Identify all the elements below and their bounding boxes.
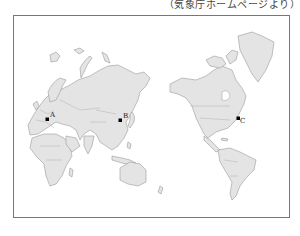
greenland (238, 32, 274, 82)
world-map: A B C (0, 0, 300, 236)
marker-a-label: A (49, 111, 56, 119)
marker-c[interactable]: C (237, 117, 246, 126)
svalbard (50, 52, 60, 62)
marker-b-label: B (123, 112, 128, 120)
canadian-arctic (206, 56, 226, 68)
new-zealand (158, 186, 163, 194)
marker-square-icon (46, 118, 50, 122)
marker-square-icon (119, 119, 123, 123)
india (84, 136, 94, 154)
central-america (204, 136, 220, 152)
novaya-zemlya (80, 56, 92, 78)
marker-c-label: C (240, 117, 245, 125)
severnaya-zemlya (102, 52, 110, 63)
north-america (170, 66, 246, 138)
baffin (226, 50, 238, 64)
caribbean (221, 138, 228, 141)
south-america (218, 148, 256, 200)
australia (120, 162, 146, 186)
madagascar (69, 168, 73, 177)
franz-josef (74, 48, 84, 54)
philippines (127, 142, 131, 149)
